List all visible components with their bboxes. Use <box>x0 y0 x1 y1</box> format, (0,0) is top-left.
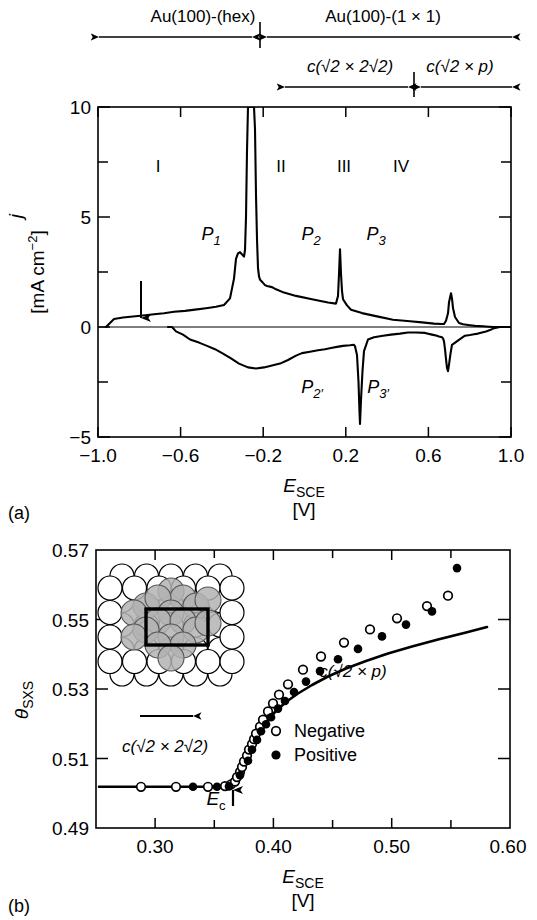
peak-label-P2: P2 <box>301 224 321 248</box>
panel-b-xlabel-symbol: E <box>282 866 295 887</box>
panel-b-xtick-2: 0.50 <box>373 836 410 857</box>
svg-text:ESCE: ESCE <box>282 866 323 891</box>
peak-label-P3: P3 <box>366 224 386 248</box>
panel-a-ytick-0: 0 <box>80 317 91 338</box>
figure-svg: Au(100)-(hex) Au(100)-(1 × 1) c(√2 × 2√2… <box>0 0 537 920</box>
legend-label-positive: Positive <box>294 745 357 765</box>
label-adlayer-2: c(√2 × p) <box>426 57 493 76</box>
peak-label-P3prime: P3′ <box>367 377 389 401</box>
panel-a-ylabel-exp: −2 <box>25 236 40 251</box>
panel-b-ylabel: θSXS <box>11 681 36 719</box>
panel-a-xlabel-symbol: E <box>283 475 296 496</box>
region-label-III: III <box>337 157 351 176</box>
panel-a-ylabel: j [mA cm−2] <box>5 213 48 314</box>
phase-label-left: c(√2 × 2√2) <box>122 737 208 756</box>
legend-label-negative: Negative <box>294 721 365 741</box>
panel-b-xlabel-units: [V] <box>291 890 314 911</box>
panel-a-ytick-10: 10 <box>70 97 91 118</box>
panel-b-legend: Negative Positive <box>271 721 365 765</box>
label-adlayer-1: c(√2 × 2√2) <box>307 57 393 76</box>
panel-b-ytick-051: 0.51 <box>52 749 89 770</box>
panel-b-caption-label: (b) <box>8 896 30 916</box>
inset-atomic-structure-model <box>98 564 244 686</box>
peak-P1-letter: P <box>201 224 213 244</box>
panel-b-ytick-049: 0.49 <box>52 818 89 839</box>
peak-P2p-letter: P <box>301 377 313 397</box>
panel-a-xtick-5: 1.0 <box>498 445 524 466</box>
peak-P2-letter: P <box>301 224 313 244</box>
region-label-I: I <box>156 157 161 176</box>
panel-a-ytick-5: 5 <box>80 207 91 228</box>
region-label-II: II <box>276 157 285 176</box>
panel-b: 0.57 0.55 0.53 0.51 0.49 0.30 0.40 0.50 … <box>8 540 526 916</box>
peak-label-P2prime: P2′ <box>301 377 323 401</box>
panel-a-xtick-1: −0.6 <box>162 445 200 466</box>
panel-a-xlabel-sub: SCE <box>296 484 325 500</box>
panel-b-xlabel-sub: SCE <box>295 875 324 891</box>
label-surface-1x1: Au(100)-(1 × 1) <box>325 7 441 26</box>
peak-P3-letter: P <box>366 224 378 244</box>
panel-b-ytick-057: 0.57 <box>52 540 89 561</box>
cv-negative-sweep-path <box>168 327 511 424</box>
peak-P2p-sub: 2′ <box>312 386 323 401</box>
peak-P3-sub: 3 <box>378 233 386 248</box>
panel-a-xtick-0: −1.0 <box>79 445 117 466</box>
panel-a-caption-label: (a) <box>8 503 30 523</box>
panel-a-xlabel-units: [V] <box>292 499 315 520</box>
panel-b-xtick-0: 0.30 <box>137 836 174 857</box>
peak-P1-sub: 1 <box>213 233 220 248</box>
peak-P3p-letter: P <box>367 377 379 397</box>
legend-marker-positive-icon <box>271 750 280 759</box>
panel-b-ytick-055: 0.55 <box>52 610 89 631</box>
panel-a-ylabel-units: [mA cm−2] <box>25 230 48 313</box>
panel-a: 10 5 0 −5 −1.0 −0.6 −0.2 0.2 0.6 1.0 j [… <box>5 97 524 523</box>
svg-text:θSXS: θSXS <box>11 681 36 719</box>
panel-b-xtick-3: 0.60 <box>490 836 527 857</box>
legend-marker-negative-icon <box>272 727 281 736</box>
peak-P3p-sub: 3′ <box>379 386 389 401</box>
region-label-IV: IV <box>393 157 410 176</box>
panel-a-ylabel-close: ] <box>27 230 48 235</box>
svg-text:ESCE: ESCE <box>283 475 324 500</box>
label-surface-hex: Au(100)-(hex) <box>151 7 256 26</box>
panel-a-ylabel-symbol: j <box>5 213 26 221</box>
panel-a-xtick-2: −0.2 <box>244 445 282 466</box>
cv-positive-sweep-path <box>106 107 511 327</box>
peak-P2-sub: 2 <box>312 233 321 248</box>
panel-b-ytick-053: 0.53 <box>52 679 89 700</box>
peak-label-P1: P1 <box>201 224 220 248</box>
critical-potential-sub: c <box>219 798 226 813</box>
panel-a-xlabel: ESCE [V] <box>283 475 324 520</box>
top-phase-annotations: Au(100)-(hex) Au(100)-(1 × 1) c(√2 × 2√2… <box>99 7 512 97</box>
panel-a-ylabel-units-main: [mA cm <box>27 250 48 313</box>
figure-container: Au(100)-(hex) Au(100)-(1 × 1) c(√2 × 2√2… <box>0 0 537 920</box>
panel-a-xtick-4: 0.6 <box>415 445 441 466</box>
panel-b-ylabel-sub: SXS <box>20 681 36 709</box>
panel-a-xtick-3: 0.2 <box>333 445 359 466</box>
panel-b-xtick-1: 0.40 <box>255 836 292 857</box>
panel-b-xlabel: ESCE [V] <box>282 866 323 911</box>
